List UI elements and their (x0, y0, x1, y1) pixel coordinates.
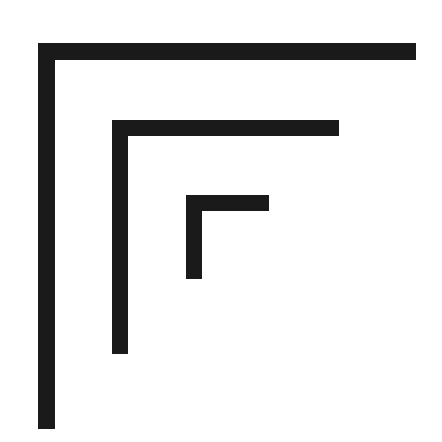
outer-bracket-vertical-bar (38, 43, 55, 429)
outer-bracket-horizontal-bar (38, 43, 416, 60)
middle-bracket-vertical-bar (112, 120, 128, 354)
middle-bracket-horizontal-bar (112, 120, 339, 136)
bracket-diagram (0, 0, 442, 442)
inner-bracket-vertical-bar (186, 195, 202, 279)
